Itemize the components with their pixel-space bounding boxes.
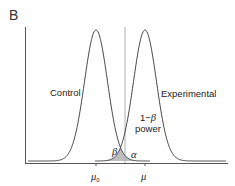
- experimental-label: Experimental: [161, 88, 216, 99]
- power-label-line1: 1−β: [140, 112, 157, 123]
- mu-label: μ: [140, 171, 146, 182]
- power-label-line2: power: [135, 123, 161, 134]
- alpha-label: α: [131, 149, 137, 160]
- beta-label: β: [111, 146, 118, 157]
- mu0-subscript: 0: [96, 177, 100, 183]
- power-beta-symbol: β: [150, 112, 157, 123]
- control-label: Control: [50, 87, 81, 98]
- mu0-label: μ0: [90, 171, 100, 183]
- power-one-minus: 1−: [140, 112, 151, 123]
- power-diagram: Control Experimental 1−β power β α μ0 μ: [0, 0, 235, 186]
